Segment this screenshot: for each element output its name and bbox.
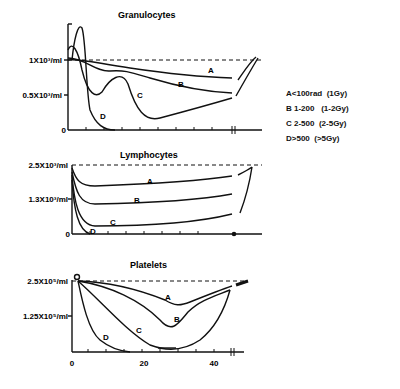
granulocytes-title: Granulocytes [118,10,176,20]
lymphocytes-label-b: B [134,196,140,205]
lymphocytes-label-a: A [147,177,153,186]
granulocytes-curve-d [72,27,115,130]
lymphocytes-y-hi: 2.5X10³/ml [28,161,68,170]
platelets-label-d: D [103,333,109,342]
lymphocytes-axes [68,165,262,236]
lymphocytes-title: Lymphocytes [120,150,178,160]
granulocytes-y-mid: 0.5X10³/ml [22,91,62,100]
platelets-recovery [236,281,248,285]
platelets-curve-a [78,281,232,305]
lymphocytes-y-zero: 0 [66,230,71,239]
platelets-label-c: C [136,326,142,335]
granulocytes-y-hi: 1X10³/ml [29,56,62,65]
legend-item-b: B 1-200 (1-2Gy) [286,101,349,116]
granulocytes-label-b: B [178,80,184,89]
lymphocytes-y-mid: 1.3X10³/ml [28,195,68,204]
granulocytes-label-c: C [137,91,143,100]
dose-legend: A<100rad (1Gy) B 1-200 (1-2Gy) C 2-500 (… [286,86,349,146]
lymphocytes-label-d: D [90,227,96,236]
legend-item-a: A<100rad (1Gy) [286,86,349,101]
platelets-label-b: B [174,315,180,324]
granulocytes-label-a: A [208,66,214,75]
x-tick-0: 0 [70,359,75,368]
chart-canvas: Granulocytes Lymphocytes Platelets 1X10³… [0,0,400,389]
x-tick-20: 20 [140,359,149,368]
granulocytes-y-zero: 0 [62,126,67,135]
platelets-label-a: A [165,293,171,302]
granulocytes-curve-b [68,58,232,93]
granulocytes-label-d: D [100,112,106,121]
lymphocytes-label-c: C [110,218,116,227]
granulocytes-curve-c [68,46,232,119]
platelets-y-mid: 1.25X10⁵/ml [23,312,68,321]
lymphocytes-curves [72,167,252,234]
platelets-curves [75,275,249,353]
legend-item-d: D>500 (>5Gy) [286,131,349,146]
platelets-title: Platelets [130,260,167,270]
granulocytes-curves [68,27,258,130]
x-tick-40: 40 [210,359,219,368]
legend-item-c: C 2-500 (2-5Gy) [286,116,349,131]
lymphocytes-curve-d [72,180,90,234]
lymphocytes-recovery [238,167,252,213]
platelets-curve-b [78,281,230,327]
platelets-y-hi: 2.5X10⁵/ml [27,277,68,286]
